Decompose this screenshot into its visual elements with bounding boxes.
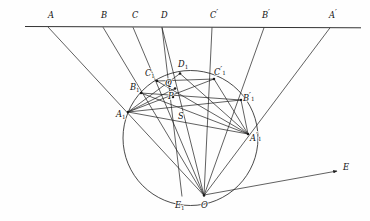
- point-label-A1: A1: [115, 109, 126, 120]
- vertex-dot-B1p: [240, 99, 243, 102]
- main-circle: [123, 71, 258, 206]
- vertex-dot-B1: [140, 92, 143, 95]
- point-label-B1: B1: [129, 82, 140, 93]
- point-label-O: O: [201, 200, 208, 210]
- vertex-dot-O: [203, 194, 206, 197]
- vertex-dot-A1p: [247, 133, 250, 136]
- point-label-C1p: C′1: [214, 65, 226, 77]
- vertex-dot-C1: [156, 80, 159, 83]
- chord-D1-to-A1p: [180, 74, 248, 135]
- point-label-E: E: [342, 162, 349, 172]
- vertex-dot-Q: [174, 87, 177, 90]
- segments-layer: [48, 27, 330, 197]
- vertex-dot-A1: [127, 111, 130, 114]
- ray-O-to-E: [204, 171, 337, 195]
- point-label-B1p: B′1: [242, 91, 255, 103]
- vertex-dot-C1p: [213, 78, 216, 81]
- point-label-E1: E1: [174, 200, 185, 211]
- point-label-C: C: [132, 10, 139, 20]
- vertex-dot-D1: [179, 72, 182, 75]
- circle-layer: [123, 71, 258, 206]
- horizontal-transversal-line: [25, 27, 361, 28]
- chord-A1-to-B1p: [128, 100, 241, 112]
- ray-Cprime-to-O: [204, 28, 212, 196]
- point-label-C1: C1: [145, 68, 155, 79]
- baseline-layer: [25, 27, 361, 28]
- geometry-diagram: ABCDC′B′A′A1B1C1D1C′1B′1A′1E1OEPQS: [0, 0, 370, 221]
- ray-E-layer: [204, 171, 337, 195]
- point-label-D1: D1: [177, 59, 188, 70]
- point-label-A1p: A′1: [249, 131, 261, 143]
- point-label-Ap: A′: [328, 8, 337, 20]
- point-label-P: P: [167, 91, 174, 101]
- point-label-S: S: [178, 111, 184, 121]
- point-label-Cp: C′: [210, 8, 218, 20]
- point-label-Q: Q: [165, 78, 172, 88]
- point-label-Bp: B′: [261, 8, 270, 20]
- point-label-A: A: [47, 10, 54, 20]
- point-label-D: D: [160, 10, 168, 20]
- figure-canvas: ABCDC′B′A′A1B1C1D1C′1B′1A′1E1OEPQS: [0, 0, 370, 221]
- point-label-B: B: [100, 10, 107, 20]
